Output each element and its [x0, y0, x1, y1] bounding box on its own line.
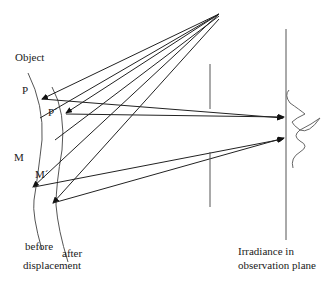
displacement-label: displacement — [23, 259, 81, 271]
irradiance-label-line2: observation plane — [238, 259, 316, 271]
object-label: Object — [15, 51, 44, 63]
point-p-label: P — [22, 84, 28, 96]
irradiance-label-line1: Irradiance in — [238, 245, 294, 257]
after-label: after — [62, 247, 82, 259]
point-m-prime-label: M´ — [35, 168, 48, 180]
illumination-rays — [33, 14, 219, 203]
surface-before — [28, 73, 42, 250]
before-label: before — [25, 240, 53, 252]
point-p-prime-label: P´ — [48, 106, 58, 118]
irradiance-curve — [287, 90, 320, 168]
point-m-label: M — [14, 151, 24, 163]
